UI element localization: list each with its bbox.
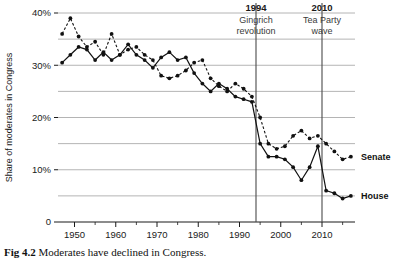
x-axis-tick-label: 1950 <box>64 229 85 240</box>
data-point-house <box>85 48 89 52</box>
data-point-senate <box>192 61 196 65</box>
annotation-line2-1994: revolution <box>236 26 275 36</box>
data-point-house <box>266 155 270 159</box>
data-point-senate <box>324 142 328 146</box>
x-axis-tick-label: 1970 <box>146 229 167 240</box>
data-point-house <box>101 50 105 54</box>
annotation-line2-2010: wave <box>310 26 332 36</box>
data-point-house <box>192 71 196 75</box>
data-point-house <box>349 194 353 198</box>
data-point-senate <box>159 74 163 78</box>
data-point-senate <box>167 76 171 80</box>
y-axis-tick-label: 10% <box>32 164 52 175</box>
data-point-senate <box>200 58 204 62</box>
annotation-line1-2010: Tea Party <box>303 15 342 25</box>
data-point-house <box>167 50 171 54</box>
data-point-senate <box>299 129 303 133</box>
data-point-senate <box>68 16 72 20</box>
data-point-house <box>283 157 287 161</box>
annotation-year-1994: 1994 <box>245 2 267 13</box>
data-point-senate <box>143 53 147 57</box>
data-point-house <box>217 82 221 86</box>
data-point-house <box>341 197 345 201</box>
figure-caption: Fig 4.2 Moderates have declined in Congr… <box>4 246 404 258</box>
data-point-senate <box>291 134 295 138</box>
caption-label: Fig 4.2 <box>4 246 36 258</box>
data-point-senate <box>341 157 345 161</box>
data-point-house <box>151 66 155 70</box>
x-axis-tick-label: 1960 <box>105 229 126 240</box>
data-point-house <box>93 58 97 62</box>
series-label-house: House <box>361 191 389 201</box>
y-axis-tick-label: 20% <box>32 112 52 123</box>
data-point-house <box>60 61 64 65</box>
data-point-house <box>126 42 130 46</box>
data-point-house <box>250 100 254 104</box>
x-axis-tick-label: 2010 <box>311 229 332 240</box>
data-point-house <box>308 165 312 169</box>
data-point-house <box>233 95 237 99</box>
data-point-senate <box>233 82 237 86</box>
data-point-senate <box>250 95 254 99</box>
data-point-house <box>324 189 328 193</box>
x-axis-tick-label: 1990 <box>229 229 250 240</box>
data-point-house <box>143 58 147 62</box>
data-point-senate <box>176 74 180 78</box>
data-point-house <box>110 58 114 62</box>
data-point-house <box>159 56 163 60</box>
data-point-senate <box>184 69 188 73</box>
data-point-senate <box>93 40 97 44</box>
data-point-senate <box>242 87 246 91</box>
data-point-senate <box>151 58 155 62</box>
series-label-senate: Senate <box>361 152 391 162</box>
data-point-house <box>134 53 138 57</box>
data-point-senate <box>275 147 279 151</box>
y-axis-tick-label: 0 <box>46 216 51 227</box>
data-point-house <box>225 87 229 91</box>
annotation-line1-1994: Gingrich <box>239 15 273 25</box>
series-line-house <box>62 44 351 198</box>
data-point-senate <box>209 76 213 80</box>
moderates-line-chart: 010%20%30%40%195019601970198019902000201… <box>0 0 407 246</box>
data-point-senate <box>332 150 336 154</box>
data-point-house <box>242 97 246 101</box>
data-point-house <box>209 89 213 93</box>
x-axis-tick-label: 1980 <box>188 229 209 240</box>
data-point-house <box>299 178 303 182</box>
data-point-house <box>291 165 295 169</box>
data-point-house <box>77 45 81 49</box>
data-point-senate <box>316 134 320 138</box>
data-point-house <box>176 58 180 62</box>
data-point-senate <box>60 32 64 36</box>
data-point-house <box>275 155 279 159</box>
x-axis-tick-label: 2000 <box>270 229 291 240</box>
figure-container: 010%20%30%40%195019601970198019902000201… <box>0 0 407 267</box>
data-point-senate <box>283 144 287 148</box>
y-axis-title: Share of moderates in Congress <box>4 52 14 182</box>
caption-text: Moderates have declined in Congress. <box>39 246 207 258</box>
data-point-house <box>68 53 72 57</box>
y-axis-tick-label: 40% <box>32 7 52 18</box>
data-point-senate <box>126 48 130 52</box>
data-point-senate <box>110 32 114 36</box>
annotation-year-2010: 2010 <box>311 2 332 13</box>
data-point-senate <box>134 45 138 49</box>
data-point-house <box>316 144 320 148</box>
data-point-house <box>258 142 262 146</box>
data-point-senate <box>266 142 270 146</box>
data-point-senate <box>258 116 262 120</box>
data-point-house <box>332 191 336 195</box>
data-point-house <box>118 53 122 57</box>
data-point-senate <box>349 155 353 159</box>
data-point-house <box>200 82 204 86</box>
y-axis-tick-label: 30% <box>32 60 52 71</box>
data-point-senate <box>308 137 312 141</box>
data-point-house <box>184 56 188 60</box>
data-point-senate <box>77 35 81 39</box>
